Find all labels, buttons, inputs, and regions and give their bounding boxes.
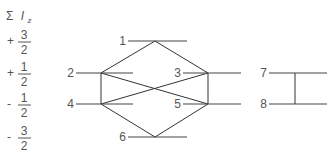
energy-level-diagram: Σ I z +32+12-12-32 12345678: [0, 0, 335, 158]
level-label: 8: [260, 97, 267, 111]
energy-levels: 12345678: [67, 34, 327, 144]
level-label: 5: [174, 97, 181, 111]
sigma-symbol: Σ: [6, 9, 13, 23]
denominator: 2: [21, 106, 28, 120]
axis-subscript: z: [26, 16, 31, 25]
level-label: 6: [119, 130, 126, 144]
level-1: 1: [119, 34, 187, 48]
transition-5-6: [155, 104, 208, 137]
level-7: 7: [260, 66, 327, 80]
sign: -: [7, 97, 11, 111]
level-label: 1: [119, 34, 126, 48]
numerator: 3: [21, 28, 28, 42]
level-2: 2: [67, 66, 133, 80]
denominator: 2: [21, 43, 28, 57]
level-label: 7: [260, 66, 267, 80]
level-label: 2: [67, 66, 74, 80]
axis-value: -32: [7, 124, 31, 153]
axis-variable: I: [21, 9, 25, 23]
denominator: 2: [21, 139, 28, 153]
axis-value: +32: [7, 28, 31, 57]
denominator: 2: [21, 75, 28, 89]
level-label: 4: [67, 97, 74, 111]
transition-4-6: [101, 104, 155, 137]
axis-title: Σ I z: [6, 9, 31, 25]
level-4: 4: [67, 97, 133, 111]
sign: -: [7, 130, 11, 144]
level-label: 3: [174, 66, 181, 80]
transition-lines: [101, 41, 295, 137]
sign: +: [7, 34, 14, 48]
numerator: 1: [21, 91, 28, 105]
numerator: 1: [21, 60, 28, 74]
transition-1-2: [101, 41, 155, 73]
sign: +: [7, 66, 14, 80]
axis-values: +32+12-12-32: [7, 28, 31, 153]
axis-labels: Σ I z: [6, 9, 31, 25]
numerator: 3: [21, 124, 28, 138]
transition-1-3: [155, 41, 208, 73]
level-8: 8: [260, 97, 327, 111]
level-6: 6: [119, 130, 187, 144]
axis-value: +12: [7, 60, 31, 89]
axis-value: -12: [7, 91, 31, 120]
